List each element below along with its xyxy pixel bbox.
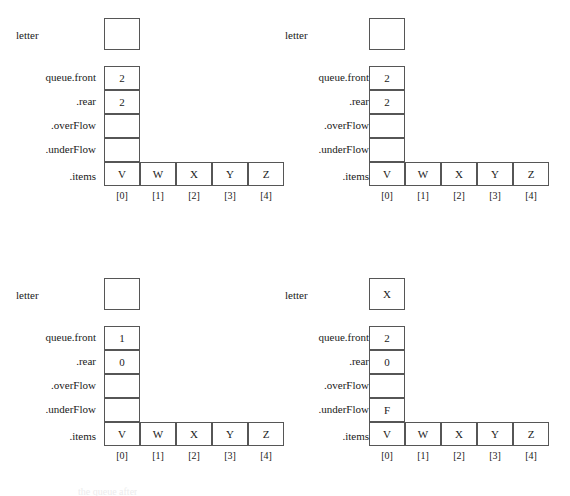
- index-label: [1]: [405, 190, 441, 201]
- overflow-value-box: [369, 374, 405, 398]
- label-items: .items: [14, 170, 96, 182]
- index-label: [3]: [212, 190, 248, 201]
- index-label: [0]: [369, 450, 405, 461]
- letter-value-box: X: [369, 278, 405, 310]
- index-label: [0]: [104, 190, 140, 201]
- label-rear: .rear: [283, 95, 369, 107]
- items-cell: Z: [248, 422, 284, 446]
- queue-snapshot-top-right: letter queue.front 2 .rear 2 .overFlow .…: [285, 0, 570, 248]
- letter-value-box: [369, 18, 405, 50]
- underflow-value-box: [104, 138, 140, 162]
- label-queue-front: queue.front: [14, 331, 96, 343]
- index-label: [3]: [477, 450, 513, 461]
- label-queue-front: queue.front: [283, 331, 369, 343]
- items-cell: Y: [212, 162, 248, 186]
- rear-value-box: 0: [104, 350, 140, 374]
- index-label: [4]: [513, 190, 549, 201]
- rear-value-box: 2: [369, 90, 405, 114]
- items-cell: Y: [477, 422, 513, 446]
- label-rear: .rear: [283, 355, 369, 367]
- underflow-value-box: [104, 398, 140, 422]
- items-cell: X: [176, 422, 212, 446]
- items-cell: W: [405, 422, 441, 446]
- label-letter: letter: [16, 289, 39, 301]
- label-items: .items: [14, 430, 96, 442]
- label-letter: letter: [285, 289, 308, 301]
- label-underflow: .underFlow: [14, 143, 96, 155]
- underflow-value-box: F: [369, 398, 405, 422]
- letter-value-box: [104, 278, 140, 310]
- rear-value-box: 2: [104, 90, 140, 114]
- index-label: [1]: [140, 450, 176, 461]
- label-queue-front: queue.front: [283, 71, 369, 83]
- index-label: [3]: [477, 190, 513, 201]
- label-letter: letter: [16, 29, 39, 41]
- items-cell: X: [441, 422, 477, 446]
- items-cell: X: [441, 162, 477, 186]
- index-label: [3]: [212, 450, 248, 461]
- underflow-value-box: [369, 138, 405, 162]
- front-value-box: 2: [369, 66, 405, 90]
- rear-value-box: 0: [369, 350, 405, 374]
- items-cell: W: [140, 162, 176, 186]
- items-cell: Y: [477, 162, 513, 186]
- label-overflow: .overFlow: [14, 119, 96, 131]
- items-cell: Z: [513, 422, 549, 446]
- index-label: [4]: [513, 450, 549, 461]
- label-overflow: .overFlow: [14, 379, 96, 391]
- index-label: [4]: [248, 190, 284, 201]
- items-cell: Y: [212, 422, 248, 446]
- index-label: [1]: [405, 450, 441, 461]
- items-cell: Z: [513, 162, 549, 186]
- index-label: [2]: [176, 450, 212, 461]
- index-label: [2]: [441, 450, 477, 461]
- items-cell: Z: [248, 162, 284, 186]
- label-underflow: .underFlow: [283, 143, 369, 155]
- index-label: [2]: [176, 190, 212, 201]
- index-label: [4]: [248, 450, 284, 461]
- index-label: [2]: [441, 190, 477, 201]
- label-overflow: .overFlow: [283, 119, 369, 131]
- index-label: [1]: [140, 190, 176, 201]
- label-overflow: .overFlow: [283, 379, 369, 391]
- index-label: [0]: [369, 190, 405, 201]
- items-cell: V: [369, 162, 405, 186]
- label-items: .items: [283, 430, 369, 442]
- letter-value-box: [104, 18, 140, 50]
- overflow-value-box: [104, 114, 140, 138]
- items-cell: W: [405, 162, 441, 186]
- front-value-box: 2: [104, 66, 140, 90]
- label-rear: .rear: [14, 95, 96, 107]
- label-underflow: .underFlow: [283, 403, 369, 415]
- label-letter: letter: [285, 29, 308, 41]
- queue-snapshot-bottom-left: letter queue.front 1 .rear 0 .overFlow .…: [0, 260, 285, 496]
- items-cell: V: [104, 162, 140, 186]
- queue-snapshot-bottom-right: letter X queue.front 2 .rear 0 .overFlow…: [285, 260, 570, 496]
- caption-remnant: the queue after: [78, 487, 137, 496]
- label-underflow: .underFlow: [14, 403, 96, 415]
- front-value-box: 2: [369, 326, 405, 350]
- items-cell: V: [369, 422, 405, 446]
- items-cell: V: [104, 422, 140, 446]
- label-items: .items: [283, 170, 369, 182]
- items-cell: X: [176, 162, 212, 186]
- overflow-value-box: [104, 374, 140, 398]
- front-value-box: 1: [104, 326, 140, 350]
- label-queue-front: queue.front: [14, 71, 96, 83]
- items-cell: W: [140, 422, 176, 446]
- label-rear: .rear: [14, 355, 96, 367]
- queue-snapshot-top-left: letter queue.front 2 .rear 2 .overFlow .…: [0, 0, 285, 248]
- index-label: [0]: [104, 450, 140, 461]
- overflow-value-box: [369, 114, 405, 138]
